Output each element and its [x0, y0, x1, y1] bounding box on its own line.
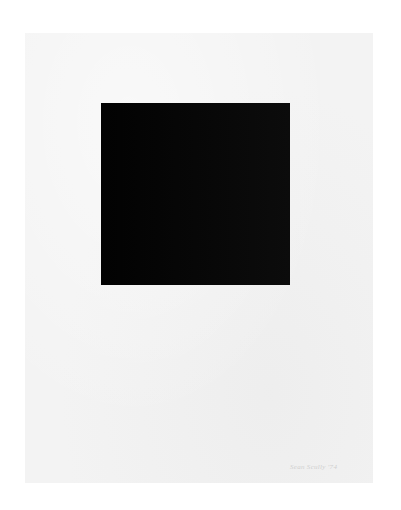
black-square	[101, 103, 290, 285]
artist-signature: Sean Scully '74	[290, 463, 337, 471]
